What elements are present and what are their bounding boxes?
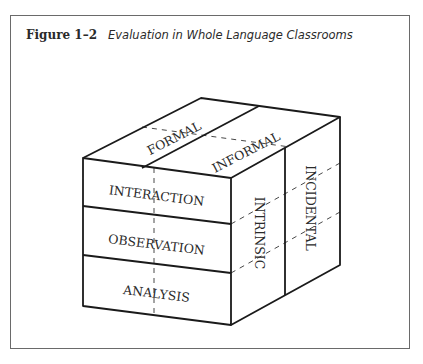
evaluation-cube-diagram: FORMAL INFORMAL INTERACTION OBSERVATION …	[0, 0, 423, 364]
label-observation: OBSERVATION	[107, 231, 205, 258]
label-informal: INFORMAL	[209, 128, 282, 175]
label-interaction: INTERACTION	[108, 182, 205, 209]
cube-edges	[83, 98, 340, 325]
label-intrinsic: INTRINSIC	[252, 197, 267, 270]
label-incidental: INCIDENTAL	[303, 165, 318, 250]
label-analysis: ANALYSIS	[121, 282, 190, 305]
